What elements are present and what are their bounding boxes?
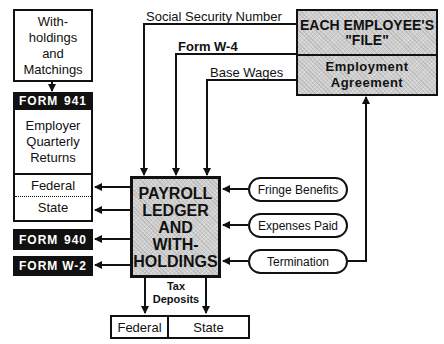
form-number: W-2 [62, 259, 87, 273]
termination-pill: Termination [248, 249, 348, 274]
file-title-line: "FILE" [345, 33, 389, 48]
returns-line: Returns [30, 150, 76, 166]
tax-deposits-label: Tax Deposits [150, 280, 202, 306]
form-number: 940 [64, 233, 87, 247]
form-number: 941 [64, 94, 87, 108]
tax-deposits-line: Deposits [153, 293, 199, 306]
tax-deposits-line: Tax [167, 280, 185, 293]
payroll-line: LEDGER [142, 202, 209, 219]
withholdings-line: Matchings [23, 62, 82, 78]
ssn-label: Social Security Number [146, 9, 282, 24]
form-940-bar: FORM 940 [13, 229, 93, 250]
payroll-line: WITH- [152, 236, 198, 253]
employee-file-box: EACH EMPLOYEE'S "FILE" Employment Agreem… [296, 9, 438, 96]
agreement-line: Employment [325, 59, 408, 75]
agreement-line: Agreement [331, 75, 403, 91]
form-w2-bar: FORM W-2 [13, 256, 93, 276]
base-wages-label: Base Wages [210, 65, 283, 80]
form-label: FORM [19, 94, 58, 108]
employment-agreement: Employment Agreement [298, 56, 436, 94]
form-941-bar: FORM 941 [13, 92, 93, 110]
withholdings-line: holdings [29, 30, 77, 46]
fringe-benefits-pill: Fringe Benefits [248, 177, 348, 202]
tax-deposits-box: Federal State [110, 315, 250, 339]
expenses-paid-pill: Expenses Paid [248, 213, 348, 238]
federal-return: Federal [15, 175, 91, 197]
payroll-ledger-box: PAYROLL LEDGER AND WITH- HOLDINGS [130, 176, 221, 278]
quarterly-returns-box: Employer Quarterly Returns Federal State [13, 110, 93, 222]
state-return: State [15, 197, 91, 218]
form-w4-label: Form W-4 [178, 39, 238, 54]
form-label: FORM [19, 259, 58, 273]
payroll-line: HOLDINGS [133, 253, 217, 270]
withholdings-line: With- [38, 14, 68, 30]
tax-federal: Federal [112, 317, 169, 337]
withholdings-box: With- holdings and Matchings [13, 9, 93, 82]
returns-line: Employer [26, 118, 81, 134]
tax-state: State [169, 317, 248, 337]
returns-line: Quarterly [26, 134, 79, 150]
form-label: FORM [19, 233, 58, 247]
file-title-line: EACH EMPLOYEE'S [300, 18, 434, 33]
payroll-line: PAYROLL [139, 185, 213, 202]
payroll-line: AND [158, 219, 193, 236]
withholdings-line: and [42, 46, 64, 62]
employee-file-title: EACH EMPLOYEE'S "FILE" [298, 11, 436, 56]
